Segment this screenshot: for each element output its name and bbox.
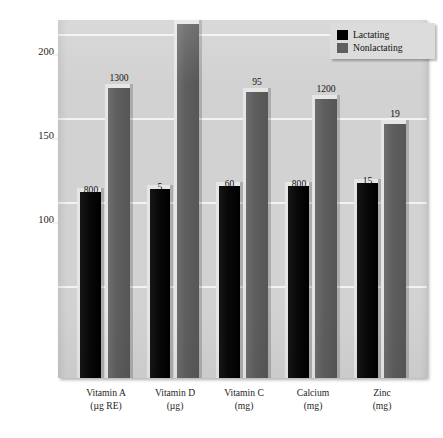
bar-shade [170,185,173,378]
bar-value-lactating-vitamin-d: 5 [142,181,178,192]
bar-value-nonlactating-zinc: 19 [375,108,415,119]
chart-legend[interactable]: Lactating Nonlactating [330,23,435,59]
bar-nonlactating-vitamin-d[interactable] [177,24,199,378]
x-label-vitamin-c: Vitamin C (mg) [204,386,284,412]
x-label-zinc-unit: (mg) [342,399,422,412]
x-label-vitamin-d: Vitamin D (µg) [135,386,215,412]
legend-item-nonlactating[interactable]: Nonlactating [337,41,429,54]
x-label-zinc-name: Zinc [373,387,391,398]
bar-body [315,99,337,378]
bar-body [384,124,406,378]
bar-value-lactating-vitamin-c: 60 [211,178,248,189]
bar-nonlactating-vitamin-a[interactable] [108,88,130,378]
x-label-vitamin-a-name: Vitamin A [86,387,126,398]
bar-chart-figure: Percentage of RDA for Nonlactating, Nonp… [0,0,443,438]
bar-value-nonlactating-vitamin-c: 95 [237,76,277,87]
bar-shade [101,188,104,378]
y-tick-label-200: 200 [2,46,54,57]
bar-lactating-calcium[interactable] [288,186,309,378]
bar-value-lactating-vitamin-a: 800 [72,184,110,195]
bar-shade [130,84,133,378]
plot-area: 800 1300 5 10 60 [58,20,427,378]
bar-shade [406,120,409,378]
bar-value-lactating-calcium: 800 [280,178,318,189]
bar-body [246,92,268,378]
x-label-calcium: Calcium (mg) [273,386,353,412]
bar-shade [337,95,340,378]
legend-swatch-nonlactating-icon [337,43,348,53]
bar-value-nonlactating-calcium: 1200 [305,83,347,94]
x-label-vitamin-d-unit: (µg) [135,399,215,412]
bar-value-lactating-zinc: 15 [349,175,386,186]
bar-body [288,186,309,378]
bar-shade [268,88,271,378]
x-label-vitamin-a: Vitamin A (µg RE) [66,386,146,412]
bar-shade [199,20,202,378]
x-label-vitamin-d-name: Vitamin D [155,387,195,398]
bar-body [150,189,170,378]
bar-lactating-vitamin-c[interactable] [219,186,240,378]
bar-lactating-zinc[interactable] [357,183,378,378]
bar-lactating-vitamin-d[interactable] [150,189,170,378]
bar-value-nonlactating-vitamin-a: 1300 [98,72,140,83]
x-label-vitamin-c-unit: (mg) [204,399,284,412]
y-tick-label-150: 150 [2,130,54,141]
bar-body [80,192,101,378]
legend-item-lactating[interactable]: Lactating [337,28,429,41]
bar-nonlactating-calcium[interactable] [315,99,337,378]
x-label-zinc: Zinc (mg) [342,386,422,412]
bar-body [357,183,378,378]
y-axis-ticks: 200 150 100 [0,20,54,378]
x-label-calcium-name: Calcium [297,387,330,398]
x-label-vitamin-c-name: Vitamin C [224,387,264,398]
bar-lactating-vitamin-a[interactable] [80,192,101,378]
legend-swatch-lactating-icon [337,30,348,40]
bar-nonlactating-zinc[interactable] [384,124,406,378]
legend-label-lactating: Lactating [353,29,389,40]
bar-body [177,24,199,378]
y-tick-label-100: 100 [2,214,54,225]
legend-label-nonlactating: Nonlactating [353,42,403,53]
x-label-vitamin-a-unit: (µg RE) [66,399,146,412]
bar-nonlactating-vitamin-c[interactable] [246,92,268,378]
x-label-calcium-unit: (mg) [273,399,353,412]
bar-body [219,186,240,378]
bar-body [108,88,130,378]
x-axis-labels: Vitamin A (µg RE) Vitamin D (µg) Vitamin… [58,386,427,426]
